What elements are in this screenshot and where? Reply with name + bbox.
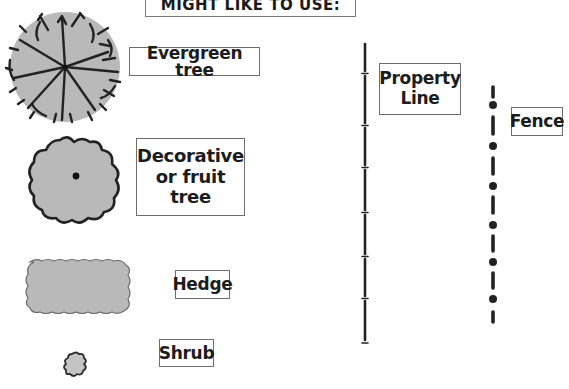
decorative-tree-label-line-2: or fruit: [156, 167, 225, 188]
decorative-tree-label: Decorative or fruit tree: [136, 138, 245, 216]
evergreen-tree-icon: [6, 12, 120, 122]
shrub-label-text: Shrub: [159, 345, 215, 362]
shrub-icon: [64, 353, 86, 377]
evergreen-tree-label: Evergreen tree: [129, 47, 260, 76]
property-line-label-line-2: Line: [400, 89, 439, 109]
property-line-label-line-1: Property: [379, 69, 460, 89]
shrub-label: Shrub: [159, 339, 214, 367]
decorative-tree-label-line-3: tree: [170, 187, 211, 208]
hedge-label: Hedge: [175, 270, 230, 299]
property-line-label: Property Line: [379, 63, 461, 115]
symbols-canvas: [0, 0, 569, 389]
decorative-tree-icon: [29, 137, 118, 222]
evergreen-tree-label-text: Evergreen tree: [130, 45, 259, 79]
hedge-label-text: Hedge: [172, 276, 232, 293]
property-line-icon: [362, 44, 368, 343]
fence-label-text: Fence: [510, 113, 565, 130]
fence-icon: [489, 87, 497, 322]
decorative-tree-label-line-1: Decorative: [137, 146, 244, 167]
fence-label: Fence: [511, 107, 563, 136]
hedge-icon: [26, 260, 130, 314]
